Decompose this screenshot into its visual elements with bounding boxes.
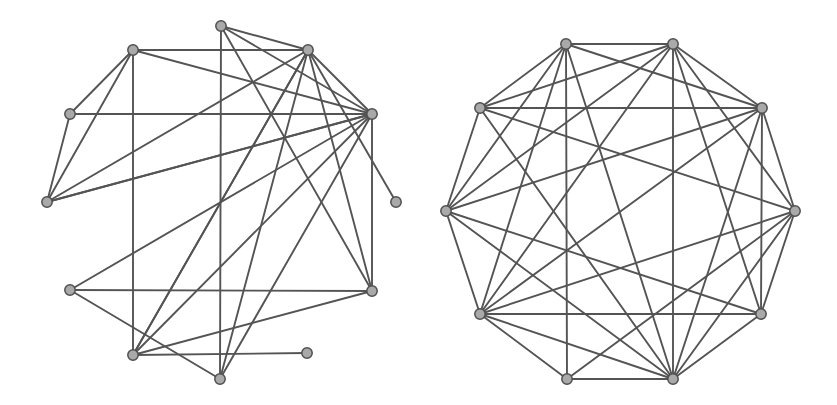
graph-node[interactable] (215, 374, 225, 384)
graph-node[interactable] (562, 374, 572, 384)
graph-node[interactable] (216, 21, 226, 31)
graph-canvas (0, 0, 837, 405)
graph-node[interactable] (790, 206, 800, 216)
figure-background (0, 0, 837, 405)
graph-node[interactable] (65, 285, 75, 295)
graph-node[interactable] (303, 45, 313, 55)
graph-node[interactable] (302, 348, 312, 358)
graph-node[interactable] (756, 309, 766, 319)
graph-node[interactable] (441, 206, 451, 216)
graph-node[interactable] (475, 103, 485, 113)
graph-node[interactable] (65, 109, 75, 119)
graph-node[interactable] (561, 39, 571, 49)
graph-edge (70, 290, 372, 291)
graph-node[interactable] (668, 39, 678, 49)
graph-node[interactable] (42, 197, 52, 207)
graph-node[interactable] (128, 350, 138, 360)
graph-node[interactable] (668, 374, 678, 384)
graph-node[interactable] (367, 286, 377, 296)
graph-node[interactable] (391, 197, 401, 207)
graph-edge (761, 108, 762, 314)
graph-node[interactable] (757, 103, 767, 113)
graph-figure (0, 0, 837, 405)
graph-edge (566, 44, 567, 379)
graph-node[interactable] (128, 45, 138, 55)
graph-node[interactable] (367, 109, 377, 119)
graph-node[interactable] (475, 309, 485, 319)
